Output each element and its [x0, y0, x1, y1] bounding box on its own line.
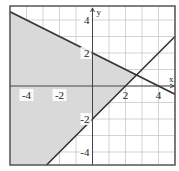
- x-tick-label: -4: [22, 89, 32, 101]
- y-tick-label: -4: [80, 146, 90, 158]
- y-tick-label: 4: [84, 14, 90, 26]
- y-tick-label: 2: [84, 47, 90, 59]
- x-tick-label: 4: [156, 89, 162, 101]
- x-axis-label: x: [169, 74, 174, 84]
- y-axis-label: y: [97, 7, 102, 17]
- y-tick-label: -2: [80, 113, 89, 125]
- coordinate-plane: -4-22442-2-4 x y: [0, 0, 179, 171]
- x-tick-label: 2: [123, 89, 129, 101]
- x-tick-label: -2: [55, 89, 64, 101]
